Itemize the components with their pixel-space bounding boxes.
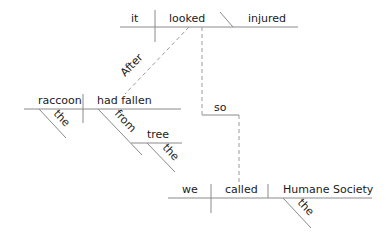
subject-it: it bbox=[131, 12, 139, 25]
subject-raccoon: raccoon bbox=[38, 94, 82, 107]
modifier-the-humane-society: the bbox=[295, 196, 317, 218]
verb-looked: looked bbox=[169, 12, 205, 25]
main-clause-2: we called Humane Society the bbox=[168, 183, 374, 228]
modifier-the-raccoon: the bbox=[51, 107, 73, 129]
conjunction-after: After bbox=[118, 51, 146, 79]
subject-we: we bbox=[182, 183, 198, 196]
complement-injured: injured bbox=[248, 12, 286, 25]
conjunction-so: so bbox=[214, 101, 227, 114]
subordinate-clause: raccoon had fallen the from tree the bbox=[24, 94, 182, 172]
complement-slant-divider bbox=[220, 12, 233, 27]
connector-so: so bbox=[202, 27, 239, 185]
sentence-diagram: it looked injured After raccoon had fall… bbox=[0, 0, 389, 232]
verb-called: called bbox=[225, 183, 258, 196]
object-humane-society: Humane Society bbox=[283, 183, 374, 196]
main-clause-1: it looked injured bbox=[120, 10, 298, 42]
object-tree: tree bbox=[147, 128, 169, 141]
preposition-from: from bbox=[112, 107, 139, 135]
verb-had-fallen: had fallen bbox=[97, 94, 152, 107]
connector-after: After bbox=[118, 27, 189, 94]
